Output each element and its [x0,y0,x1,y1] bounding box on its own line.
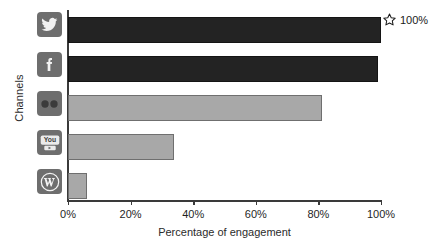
x-axis-title: Percentage of engagement [68,226,381,238]
x-tick-80 [318,200,319,205]
bar-wordpress[interactable] [68,173,87,199]
bar-twitter[interactable] [68,17,381,43]
annotation-label: 100% [400,14,428,26]
x-tick-label-100: 100% [358,208,404,220]
category-icon-twitter[interactable] [37,12,62,37]
y-axis-title: Channels [13,53,25,143]
x-tick-20 [131,200,132,205]
annotation-twitter-100: 100% [383,13,428,26]
category-icon-flickr[interactable] [37,91,62,116]
x-tick-40 [193,200,194,205]
x-axis-line [67,200,382,202]
category-icon-wordpress[interactable] [37,169,62,194]
x-tick-label-20: 20% [108,208,154,220]
engagement-bar-chart: Channels You [0,0,446,243]
bar-flickr[interactable] [68,95,322,121]
x-tick-0 [68,200,69,205]
bar-facebook[interactable] [68,56,378,82]
x-tick-label-60: 60% [233,208,279,220]
x-tick-label-80: 80% [295,208,341,220]
category-icon-youtube[interactable]: You [37,130,62,155]
svg-text:You: You [43,136,55,143]
x-tick-label-0: 0% [45,208,91,220]
category-icon-column: You [37,8,65,198]
category-icon-facebook[interactable] [37,52,62,77]
x-tick-60 [256,200,257,205]
x-tick-100 [381,200,382,205]
plot-area: 0% 20% 40% 60% 80% 100% Percentage of en… [68,10,381,200]
star-icon [383,13,396,26]
x-tick-label-40: 40% [170,208,216,220]
bar-youtube[interactable] [68,134,174,160]
